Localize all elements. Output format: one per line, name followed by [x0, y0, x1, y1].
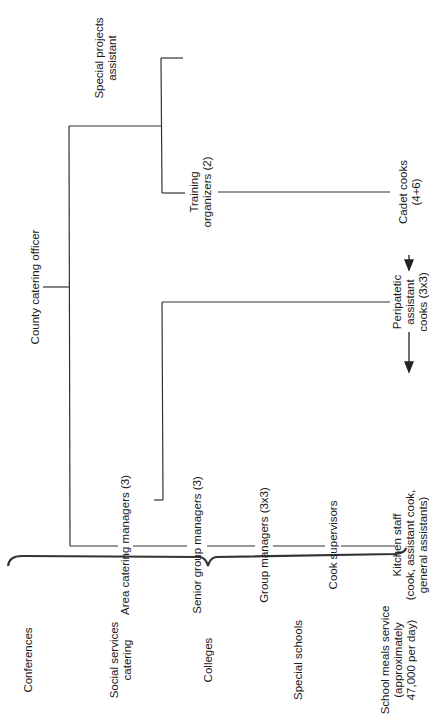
node-senior-group-managers: Senior group managers (3): [191, 476, 204, 613]
service-conferences: Conferences: [22, 627, 35, 692]
node-cook-supervisors: Cook supervisors: [327, 501, 340, 590]
node-training-organizers: Training organizers (2): [188, 157, 214, 228]
service-special-schools: Special schools: [292, 620, 305, 700]
node-special-projects-assistant: Special projects assistant: [93, 17, 119, 98]
node-group-managers: Group managers (3x3): [258, 487, 271, 603]
node-county-catering-officer: County catering officer: [29, 230, 42, 345]
node-kitchen-staff: Kitchen staff (cook, assistant cook, gen…: [391, 490, 430, 601]
node-peripatetic-assistant-cooks: Peripatetic assistant cooks (3x3): [391, 272, 430, 331]
service-colleges: Colleges: [202, 638, 215, 683]
node-area-catering-managers: Area catering managers (3): [119, 475, 132, 615]
service-school-meals: School meals service (approximately 47,0…: [379, 606, 418, 714]
node-cadet-cooks: Cadet cooks (4+6): [397, 160, 423, 224]
service-social-services-catering: Social services catering: [108, 622, 134, 699]
